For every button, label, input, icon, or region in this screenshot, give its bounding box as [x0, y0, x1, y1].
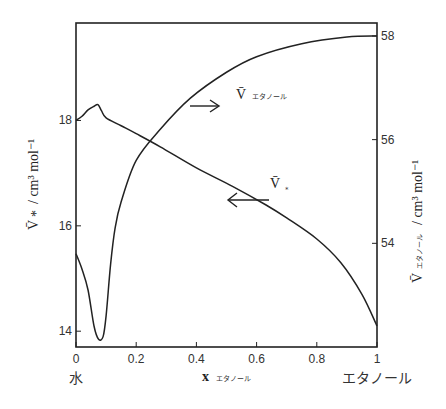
y-left-title-unit: / cm³ mol⁻¹: [26, 139, 41, 204]
ethanol-label-sub: エタノール: [252, 92, 287, 101]
x-axis-title-sub: エタノール: [216, 374, 251, 383]
x-end-label-water: 水: [69, 370, 83, 386]
y-left-tick-label: 14: [59, 324, 73, 338]
y-left-title-main: V̄: [26, 220, 41, 230]
water-label-sub: *: [285, 186, 289, 194]
x-tick-label: 0.8: [308, 352, 325, 366]
y-left-tick-label: 16: [59, 219, 73, 233]
y-right-title-main: V̄: [410, 273, 425, 283]
water-curve-label: V̄*: [270, 176, 289, 194]
y-right-axis-title: V̄エタノール/ cm³ mol⁻¹: [410, 160, 425, 283]
x-tick-label: 0.6: [248, 352, 265, 366]
y-right-title-unit: / cm³ mol⁻¹: [410, 160, 425, 225]
ethanol-curve-label: V̄エタノール: [236, 87, 287, 102]
x-tick-label: 1: [374, 352, 381, 366]
ethanol-volume-curve: [76, 36, 377, 340]
axis-ticks: 00.20.40.60.81141618545658: [59, 29, 395, 366]
x-end-label-ethanol: エタノール: [342, 370, 412, 386]
axis-labels: 水エタノールxエタノールV̄*/ cm³ mol⁻¹V̄エタノール/ cm³ m…: [26, 139, 425, 386]
ethanol-label-main: V̄: [236, 87, 246, 102]
x-tick-label: 0.4: [188, 352, 205, 366]
y-left-axis-title: V̄*/ cm³ mol⁻¹: [26, 139, 44, 230]
x-tick-label: 0: [73, 352, 80, 366]
x-axis-title: xエタノール: [202, 369, 251, 384]
series-annotations: V̄エタノールV̄*: [190, 87, 289, 207]
y-right-tick-label: 54: [381, 236, 395, 250]
water-volume-curve: [76, 104, 377, 325]
water-label-main: V̄: [270, 176, 280, 191]
y-left-tick-label: 18: [59, 113, 73, 127]
y-right-tick-label: 58: [381, 29, 395, 43]
data-series: [76, 36, 377, 340]
partial-molar-volume-chart: 00.20.40.60.81141618545658 V̄エタノールV̄* 水エ…: [0, 0, 446, 409]
y-left-title-sub: *: [29, 210, 44, 217]
y-right-tick-label: 56: [381, 133, 395, 147]
x-axis-title-main: x: [202, 369, 209, 384]
y-right-title-sub: エタノール: [415, 234, 424, 269]
x-tick-label: 0.2: [128, 352, 145, 366]
